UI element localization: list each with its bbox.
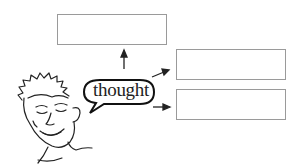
arrow-right-lower-icon <box>153 104 170 110</box>
arrow-right-upper-icon <box>152 69 169 77</box>
bubble-label: thought <box>91 79 151 101</box>
arrow-up-icon <box>121 50 127 69</box>
boy-face-illustration <box>18 73 92 163</box>
